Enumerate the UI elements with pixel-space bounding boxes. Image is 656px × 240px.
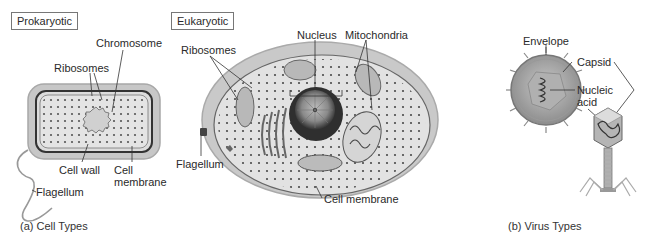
label-eukaryotic-cell-membrane: Cell membrane [324,193,399,205]
label-mitochondria: Mitochondria [345,29,408,41]
label-eukaryotic-ribosomes: Ribosomes [181,44,236,56]
label-eukaryotic-flagellum: Flagellum [176,158,224,170]
label-nucleic-acid-line1: Nucleic [577,84,613,96]
label-envelope: Envelope [523,35,569,47]
prokaryotic-cell-illustration [17,84,160,221]
label-nucleus: Nucleus [297,29,337,41]
eukaryotic-title-box: Eukaryotic [171,12,234,30]
label-prokaryotic-ribosomes: Ribosomes [54,62,109,74]
bacteriophage-illustration [580,108,636,196]
label-cell-membrane-prokaryotic-line1: Cell [114,164,133,176]
label-cell-membrane-prokaryotic-line2: membrane [114,176,167,188]
label-cell-wall: Cell wall [59,164,100,176]
prokaryotic-title-box: Prokaryotic [11,12,78,30]
label-chromosome: Chromosome [96,37,162,49]
label-nucleic-acid-line2: acid [577,96,597,108]
label-capsid: Capsid [577,56,611,68]
biology-diagram: Prokaryotic Chromosome Ribosomes Cell wa… [0,0,656,240]
eukaryotic-cell-illustration [200,42,438,198]
caption-virus-types: (b) Virus Types [508,220,582,232]
caption-cell-types: (a) Cell Types [20,220,88,232]
label-prokaryotic-flagellum: Flagellum [36,186,84,198]
